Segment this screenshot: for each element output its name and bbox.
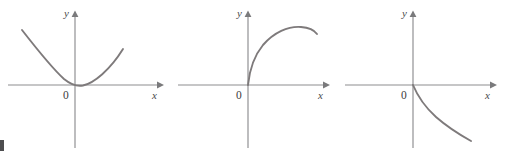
figure-sheet: y x 0 y x 0 y x 0 (0, 0, 508, 163)
y-axis-label-2: y (236, 7, 242, 19)
origin-label-3: 0 (401, 89, 407, 101)
coordinate-plot-2: y x 0 (170, 0, 340, 163)
x-axis-label-2: x (317, 89, 323, 101)
origin-label-2: 0 (236, 89, 242, 101)
y-axis-arrow-icon-3 (410, 11, 417, 18)
page-edge-artifact (0, 140, 4, 151)
x-axis-arrow-icon-3 (490, 82, 497, 89)
y-axis-label-1: y (63, 7, 69, 19)
y-axis-arrow-icon-1 (72, 11, 79, 18)
x-axis-arrow-icon-1 (157, 82, 164, 89)
y-axis-label-3: y (401, 7, 407, 19)
x-axis-label-3: x (484, 89, 490, 101)
x-axis-label-1: x (151, 89, 157, 101)
curve-2 (248, 27, 317, 85)
curve-1 (22, 30, 123, 86)
y-axis-arrow-icon-2 (245, 11, 252, 18)
x-axis-arrow-icon-2 (323, 82, 330, 89)
curve-3 (413, 85, 471, 141)
origin-label-1: 0 (63, 89, 69, 101)
coordinate-plot-1: y x 0 (0, 0, 170, 163)
coordinate-plot-3: y x 0 (338, 0, 508, 163)
